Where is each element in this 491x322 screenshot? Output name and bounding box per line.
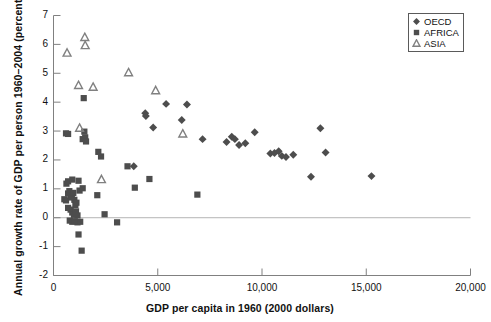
y-tick-label: 4 [22, 96, 48, 107]
square-marker [132, 185, 138, 191]
diamond-marker [178, 116, 186, 124]
square-marker [194, 192, 200, 198]
legend-item-asia: ASIA [412, 38, 459, 49]
square-marker [77, 219, 83, 225]
triangle-marker [98, 175, 106, 182]
square-marker [74, 212, 80, 218]
data-points-group [61, 33, 375, 254]
diamond-marker [183, 101, 191, 109]
square-marker [94, 192, 100, 198]
legend-item-africa: AFRICA [412, 27, 459, 38]
diamond-marker [367, 172, 375, 180]
scatter-chart-figure: Annual growth rate of GDP per person 196… [0, 0, 491, 322]
square-marker [412, 28, 421, 37]
square-marker [83, 138, 89, 144]
y-tick-label: 7 [22, 9, 48, 20]
diamond-marker [412, 17, 421, 26]
diamond-marker [235, 141, 243, 149]
y-tick-label: 5 [22, 67, 48, 78]
square-marker [80, 185, 86, 191]
x-tick-label: 15,000 [326, 282, 406, 293]
y-tick-label: 2 [22, 153, 48, 164]
diamond-marker [307, 173, 315, 181]
square-marker [75, 178, 81, 184]
y-tick-label: 1 [22, 182, 48, 193]
diamond-marker [162, 100, 170, 108]
square-marker [75, 231, 81, 237]
triangle-marker [89, 83, 97, 90]
y-tick-label: 3 [22, 125, 48, 136]
square-marker [114, 219, 120, 225]
triangle-marker [179, 130, 187, 137]
diamond-marker [199, 135, 207, 143]
y-tick-label: -1 [22, 240, 48, 251]
legend-label: ASIA [424, 38, 446, 49]
square-marker [101, 211, 107, 217]
diamond-marker [130, 162, 138, 170]
square-marker [69, 176, 75, 182]
square-marker [146, 176, 152, 182]
square-marker [65, 131, 71, 137]
square-marker [98, 153, 104, 159]
triangle-marker [75, 81, 83, 88]
diamond-marker [223, 138, 231, 146]
triangle-marker [81, 33, 89, 40]
legend-label: AFRICA [424, 27, 459, 38]
diamond-marker [322, 148, 330, 156]
square-marker [124, 163, 130, 169]
diamond-marker [413, 18, 420, 25]
triangle-marker [413, 40, 420, 46]
diamond-marker [149, 124, 157, 132]
triangle-marker [412, 39, 421, 48]
legend-label: OECD [424, 16, 451, 27]
legend-item-oecd: OECD [412, 16, 459, 27]
x-axis-title: GDP per capita in 1960 (2000 dollars) [146, 302, 334, 314]
triangle-marker [152, 86, 160, 93]
diamond-marker [316, 124, 324, 132]
triangle-marker [76, 124, 84, 131]
diamond-marker [289, 151, 297, 159]
square-marker [79, 248, 85, 254]
square-marker [414, 30, 419, 35]
y-tick-label: -2 [22, 269, 48, 280]
square-marker [73, 200, 79, 206]
square-marker [70, 190, 76, 196]
y-tick-label: 0 [22, 211, 48, 222]
x-tick-label: 0 [14, 282, 94, 293]
triangle-marker [81, 41, 89, 48]
diamond-marker [241, 139, 249, 147]
x-tick-label: 20,000 [431, 282, 491, 293]
series-asia [63, 33, 187, 182]
square-marker [81, 95, 87, 101]
x-tick-label: 10,000 [222, 282, 302, 293]
diamond-marker [251, 128, 259, 136]
chart-legend: OECDAFRICAASIA [408, 13, 464, 52]
triangle-marker [125, 68, 133, 75]
triangle-marker [63, 49, 71, 56]
y-tick-label: 6 [22, 38, 48, 49]
series-oecd [130, 100, 376, 181]
x-tick-label: 5,000 [118, 282, 198, 293]
